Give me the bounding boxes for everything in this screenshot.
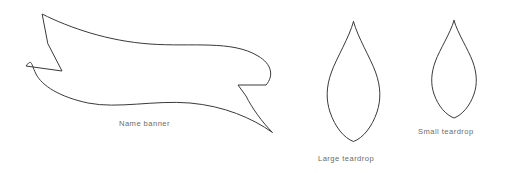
small-teardrop-shape: [432, 21, 477, 119]
shape-drawing-layer: [0, 0, 519, 173]
name-banner-shape: [26, 14, 273, 132]
name-banner-label: Name banner: [119, 120, 170, 128]
small-teardrop-label: Small teardrop: [418, 128, 474, 136]
large-teardrop-label: Large teardrop: [318, 155, 374, 163]
large-teardrop-shape: [327, 22, 380, 142]
shape-template-canvas: Name banner Large teardrop Small teardro…: [0, 0, 519, 173]
